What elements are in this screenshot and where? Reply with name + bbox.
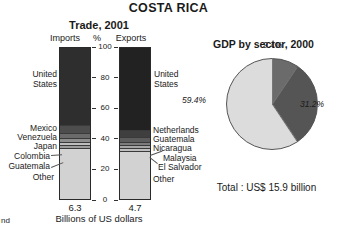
axis-tick-label: 60 <box>101 103 110 112</box>
axis-tick-0: 0 <box>92 195 118 205</box>
imports-label-other: Other <box>16 173 54 183</box>
exports-label-el-salvador: El Salvador <box>158 163 222 173</box>
exports-label-united-states: United States <box>154 70 202 89</box>
axis-tick-60: 60 <box>92 103 118 113</box>
trade-chart-title: Trade, 2001 <box>24 19 174 31</box>
axis-tick-label: 80 <box>101 73 110 82</box>
axis-tick-label: 0 <box>103 195 107 204</box>
imports-stacked-bar <box>59 47 91 200</box>
percent-axis: 100 80 60 40 20 0 <box>92 42 118 207</box>
imports-label-guatemala: Guatemala <box>0 162 50 172</box>
exports-label-other: Other <box>153 175 193 185</box>
pie-label-31-2: 31.2% <box>300 99 324 109</box>
imports-total-value: 6.3 <box>59 202 91 213</box>
axis-tick-20: 20 <box>92 164 118 174</box>
imports-segment-other <box>60 148 90 199</box>
axis-tick-label: 20 <box>101 164 110 173</box>
exports-stacked-bar <box>119 47 151 200</box>
axis-tick-40: 40 <box>92 134 118 144</box>
axis-tick-label: 40 <box>101 134 110 143</box>
exports-segment-united-states <box>120 48 150 130</box>
pie-slice-divider-top <box>272 58 273 104</box>
axis-tick-100: 100 <box>92 42 118 52</box>
corner-fragment-text: nd <box>1 216 10 225</box>
trade-axis-label: Billions of US dollars <box>24 213 174 224</box>
pie-label-59-4: 59.4% <box>182 95 206 105</box>
exports-segment-other <box>120 151 150 199</box>
axis-tick-label: 100 <box>98 42 111 51</box>
pie-label-9-4: 9.4% <box>263 40 282 50</box>
axis-tick-80: 80 <box>92 73 118 83</box>
gdp-total-label: Total : US$ 15.9 billion <box>196 182 337 193</box>
imports-segment-mexico <box>60 125 90 133</box>
exports-total-value: 4.7 <box>119 202 151 213</box>
page-title: COSTA RICA <box>0 1 337 15</box>
imports-segment-united-states <box>60 48 90 125</box>
imports-label-united-states: United States <box>15 70 57 89</box>
imports-column-header: Imports <box>38 33 92 43</box>
exports-segment-netherlands <box>120 130 150 138</box>
